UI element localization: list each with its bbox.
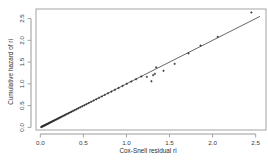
x-tick-label: 0.5 — [79, 139, 88, 146]
x-tick-label: 2.0 — [208, 139, 217, 146]
x-tick-label: 1.0 — [122, 139, 131, 146]
y-axis-title: Cumulative hazard of ri — [7, 39, 14, 105]
x-tick-label: 2.5 — [251, 139, 260, 146]
chart-canvas: 0.00.51.01.52.02.5 0.00.51.01.52.02.5 Co… — [0, 0, 268, 160]
x-tick-label: 1.5 — [165, 139, 174, 146]
y-tick-label: 2.0 — [18, 35, 25, 44]
y-tick-label: 0.0 — [18, 123, 25, 132]
y-tick-label: 2.5 — [18, 14, 25, 23]
cox-snell-residual-plot: 0.00.51.01.52.02.5 0.00.51.01.52.02.5 Co… — [0, 0, 268, 160]
x-axis-title: Cox-Snell residual ri — [119, 147, 176, 154]
y-tick-label: 1.5 — [18, 57, 25, 66]
y-tick-label: 1.0 — [18, 79, 25, 88]
x-tick-label: 0.0 — [36, 139, 45, 146]
y-tick-label: 0.5 — [18, 101, 25, 110]
